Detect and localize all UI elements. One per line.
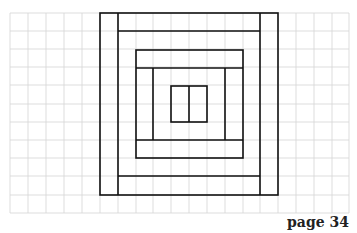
- grid-lines: [10, 13, 349, 213]
- page-number: page 34: [287, 214, 349, 230]
- grid-diagram: [0, 0, 357, 233]
